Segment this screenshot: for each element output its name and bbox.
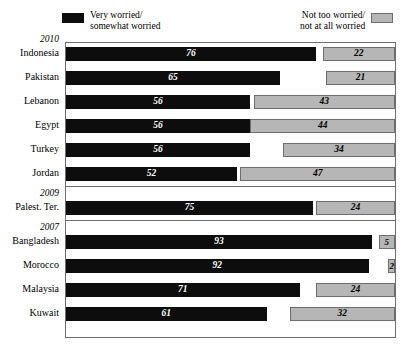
category-label-bangladesh: Bangladesh	[0, 235, 59, 246]
bar-value-not-worried: 24	[351, 285, 361, 295]
bar-segment-very-worried: 92	[66, 259, 369, 273]
bar-row: 5634	[66, 143, 395, 157]
bar-row: 7124	[66, 283, 395, 297]
category-label-malaysia: Malaysia	[0, 283, 59, 294]
bar-segment-very-worried: 65	[66, 71, 280, 85]
category-label-lebanon: Lebanon	[0, 95, 59, 106]
year-group-separator	[66, 186, 395, 187]
bar-value-very-worried: 71	[178, 285, 188, 295]
category-label-kuwait: Kuwait	[0, 307, 59, 318]
bar-value-very-worried: 52	[147, 169, 157, 179]
bar-value-not-worried: 2	[389, 262, 394, 271]
bar-segment-very-worried: 93	[66, 235, 372, 249]
category-label-turkey: Turkey	[0, 143, 59, 154]
bar-row: 6521	[66, 71, 395, 85]
bar-segment-not-worried: 5	[379, 235, 395, 249]
year-label-2010: 2010	[0, 34, 59, 44]
bar-value-not-worried: 24	[351, 203, 361, 213]
category-label-morocco: Morocco	[0, 259, 59, 270]
bar-row: 5643	[66, 95, 395, 109]
bar-segment-not-worried: 24	[316, 201, 395, 215]
bar-value-not-worried: 21	[356, 73, 366, 83]
legend-entry-not-worried: Not too worried/ not at all worried	[300, 10, 393, 32]
legend-label-not-worried: Not too worried/ not at all worried	[300, 10, 365, 32]
bar-segment-not-worried: 21	[326, 71, 395, 85]
bar-segment-not-worried: 44	[250, 119, 395, 133]
bar-value-not-worried: 43	[320, 97, 330, 107]
plot-area: 7622652156435644563452477524935922712461…	[65, 42, 396, 338]
chart-container: Very worried/ somewhat worried Not too w…	[0, 0, 406, 349]
year-group-separator	[66, 220, 395, 221]
bar-segment-not-worried: 2	[388, 259, 395, 273]
category-axis: 2010IndonesiaPakistanLebanonEgyptTurkeyJ…	[0, 0, 63, 349]
bar-segment-very-worried: 61	[66, 307, 267, 321]
bar-segment-not-worried: 24	[316, 283, 395, 297]
bar-value-very-worried: 93	[214, 237, 224, 247]
bar-segment-not-worried: 34	[283, 143, 395, 157]
bar-segment-very-worried: 52	[66, 167, 237, 181]
bar-value-very-worried: 75	[185, 203, 195, 213]
category-label-pakistan: Pakistan	[0, 71, 59, 82]
category-label-jordan: Jordan	[0, 167, 59, 178]
bar-row: 7622	[66, 47, 395, 61]
legend-entry-very-worried: Very worried/ somewhat worried	[62, 10, 160, 32]
bar-value-very-worried: 76	[186, 49, 196, 59]
bar-row: 935	[66, 235, 395, 249]
category-label-egypt: Egypt	[0, 119, 59, 130]
bar-segment-very-worried: 56	[66, 95, 250, 109]
bar-segment-very-worried: 71	[66, 283, 300, 297]
bar-segment-not-worried: 47	[240, 167, 395, 181]
bar-segment-very-worried: 75	[66, 201, 313, 215]
category-label-palest-ter: Palest. Ter.	[0, 201, 59, 212]
legend-label-very-worried: Very worried/ somewhat worried	[90, 10, 160, 32]
category-label-indonesia: Indonesia	[0, 47, 59, 58]
bar-segment-not-worried: 22	[323, 47, 395, 61]
bar-segment-not-worried: 43	[254, 95, 395, 109]
bar-value-very-worried: 61	[162, 309, 172, 319]
year-label-2009: 2009	[0, 188, 59, 198]
bar-value-very-worried: 56	[153, 97, 163, 107]
year-label-2007: 2007	[0, 222, 59, 232]
bar-segment-very-worried: 56	[66, 119, 250, 133]
bar-value-not-worried: 22	[354, 49, 364, 59]
bar-value-not-worried: 5	[385, 238, 390, 247]
bar-segment-very-worried: 76	[66, 47, 316, 61]
gray-square-swatch-icon	[371, 13, 393, 23]
bar-value-not-worried: 44	[318, 121, 328, 131]
bar-row: 5644	[66, 119, 395, 133]
bar-value-very-worried: 56	[153, 145, 163, 155]
bar-value-very-worried: 56	[153, 121, 163, 131]
bar-value-very-worried: 65	[168, 73, 178, 83]
black-square-swatch-icon	[62, 13, 84, 23]
bar-row: 922	[66, 259, 395, 273]
bar-row: 6132	[66, 307, 395, 321]
bar-value-very-worried: 92	[213, 261, 223, 271]
bar-value-not-worried: 32	[338, 309, 348, 319]
bar-value-not-worried: 34	[334, 145, 344, 155]
bar-segment-very-worried: 56	[66, 143, 250, 157]
bar-segment-not-worried: 32	[290, 307, 395, 321]
bar-row: 7524	[66, 201, 395, 215]
bar-row: 5247	[66, 167, 395, 181]
bar-value-not-worried: 47	[313, 169, 323, 179]
